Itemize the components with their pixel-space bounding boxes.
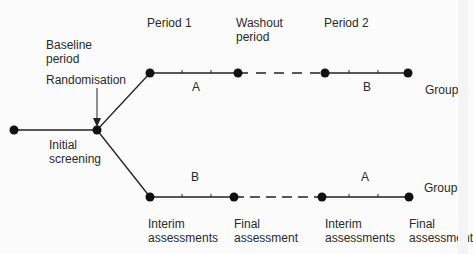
node-g2-start: [146, 193, 155, 202]
node-g2-end: [405, 193, 414, 202]
node-g2-start-p2: [318, 193, 327, 202]
node-g1-start-p2: [321, 69, 330, 78]
group2-treatment-a: A: [361, 170, 369, 184]
group2-treatment-b: B: [191, 170, 199, 184]
final-assessment-1: Final assessment: [234, 217, 298, 245]
interim-assessments-2: Interim assessments: [325, 217, 395, 245]
initial-screening-label: Initial screening: [49, 138, 101, 166]
interim-assessments-1: Interim assessments: [148, 217, 218, 245]
baseline-label: Baseline period: [46, 38, 92, 66]
node-randomisation: [93, 126, 102, 135]
node-g1-end: [404, 69, 413, 78]
washout-label: Washout period: [236, 16, 283, 44]
page-edge: [458, 0, 468, 254]
group1-treatment-a: A: [192, 80, 200, 94]
node-g2-end-p1: [230, 193, 239, 202]
node-g1-start: [146, 69, 155, 78]
group1-treatment-b: B: [363, 80, 371, 94]
node-initial: [10, 126, 19, 135]
randomisation-label: Randomisation: [46, 73, 126, 87]
branch-group2: [97, 130, 150, 197]
node-g1-end-p1: [234, 69, 243, 78]
period2-label: Period 2: [324, 16, 369, 30]
period1-label: Period 1: [147, 16, 192, 30]
